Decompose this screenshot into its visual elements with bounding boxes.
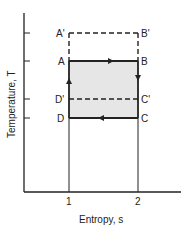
shaded-area-abcd [69, 61, 138, 118]
x-tick-label-2: 2 [135, 196, 141, 207]
label-d-prime: D' [55, 94, 64, 105]
x-tick-label-1: 1 [66, 196, 72, 207]
ts-diagram: A' B' A B D' C' D C 1 2 Entropy, s Tempe… [0, 0, 190, 237]
label-c-prime: C' [141, 94, 150, 105]
label-b-prime: B' [141, 28, 150, 39]
label-b: B [141, 56, 148, 67]
label-c: C [141, 113, 148, 124]
label-a-prime: A' [56, 28, 65, 39]
label-a: A [58, 56, 65, 67]
label-d: D [57, 113, 64, 124]
x-axis-label: Entropy, s [79, 214, 123, 225]
y-axis-label: Temperature, T [6, 70, 17, 138]
